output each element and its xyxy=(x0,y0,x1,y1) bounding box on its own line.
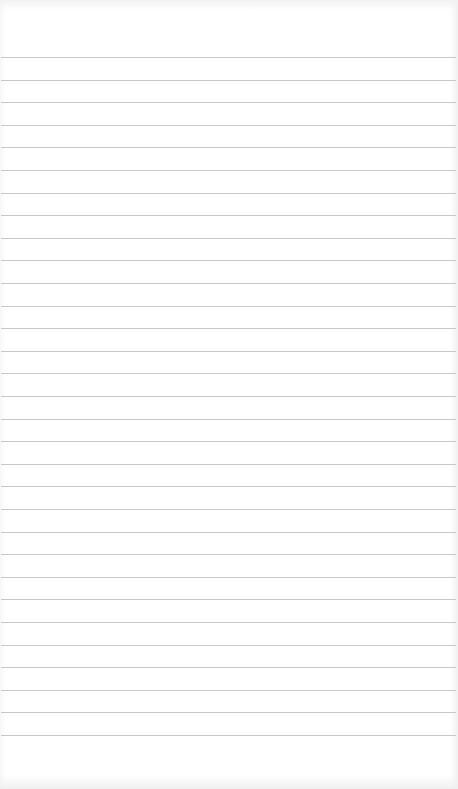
ruled-line xyxy=(1,441,456,442)
lined-paper-page xyxy=(0,0,458,789)
ruled-line xyxy=(1,306,456,307)
ruled-line xyxy=(1,577,456,578)
ruled-line xyxy=(1,125,456,126)
ruled-line xyxy=(1,645,456,646)
ruled-line xyxy=(1,486,456,487)
ruled-line xyxy=(1,532,456,533)
ruled-line xyxy=(1,170,456,171)
ruled-line xyxy=(1,419,456,420)
ruled-line xyxy=(1,509,456,510)
ruled-line xyxy=(1,690,456,691)
ruled-line xyxy=(1,599,456,600)
ruled-line xyxy=(1,351,456,352)
ruled-line xyxy=(1,147,456,148)
ruled-line xyxy=(1,57,456,58)
ruled-line xyxy=(1,102,456,103)
ruled-line xyxy=(1,283,456,284)
ruled-line xyxy=(1,373,456,374)
ruled-line xyxy=(1,667,456,668)
ruled-line xyxy=(1,735,456,736)
ruled-line xyxy=(1,193,456,194)
ruled-line xyxy=(1,554,456,555)
ruled-line xyxy=(1,622,456,623)
ruled-line xyxy=(1,712,456,713)
ruled-line xyxy=(1,260,456,261)
ruled-line xyxy=(1,464,456,465)
ruled-line xyxy=(1,215,456,216)
ruled-line xyxy=(1,396,456,397)
ruled-line xyxy=(1,238,456,239)
ruled-line xyxy=(1,80,456,81)
ruled-line xyxy=(1,328,456,329)
